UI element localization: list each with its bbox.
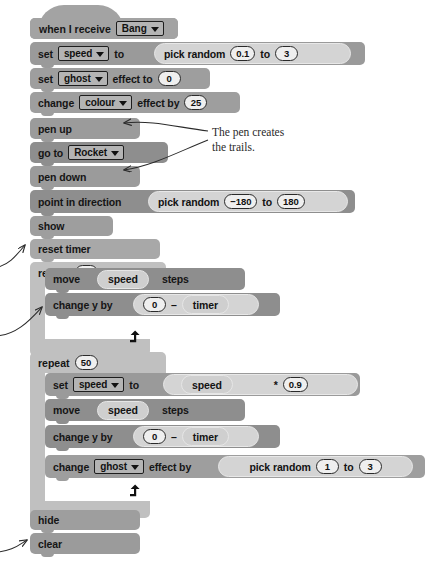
reporter-variable-speed[interactable]: speed <box>97 401 149 420</box>
block-text: point in direction <box>38 196 121 208</box>
operator-sign: * <box>274 379 278 391</box>
operand-to[interactable]: 3 <box>275 46 298 61</box>
arrow-to-clear <box>0 540 27 552</box>
block-text: set <box>38 73 53 85</box>
input-repeat-count[interactable]: 50 <box>75 355 98 370</box>
reporter-variable-speed[interactable]: speed <box>181 375 233 394</box>
block-text: move <box>53 273 80 285</box>
loop-arrow-icon <box>128 484 143 498</box>
script-canvas: when I receive Bang set speed to pick ra… <box>0 0 446 564</box>
block-move-steps-2[interactable]: move speed steps <box>45 399 245 421</box>
block-text: show <box>38 220 64 232</box>
dropdown-value: ghost <box>100 462 127 472</box>
dropdown-effect-ghost[interactable]: ghost <box>58 71 108 86</box>
operand-from[interactable]: 0.1 <box>230 46 255 61</box>
reporter-variable-timer[interactable]: timer <box>182 427 229 446</box>
loop-arrow-icon <box>128 330 143 344</box>
dropdown-message[interactable]: Bang <box>116 21 164 36</box>
block-point-in-direction[interactable]: point in direction pick random −180 to 1… <box>30 190 355 213</box>
operator-label: pick random <box>164 48 225 60</box>
reporter-subtract[interactable]: 0 – timer <box>133 294 259 315</box>
block-text: reset timer <box>38 243 91 255</box>
dropdown-value: colour <box>85 98 115 108</box>
block-text: move <box>53 404 80 416</box>
operand-left[interactable]: 0 <box>143 429 166 444</box>
operand-right[interactable]: 0.9 <box>283 377 308 392</box>
block-go-to[interactable]: go to Rocket <box>30 142 168 163</box>
dropdown-variable-speed[interactable]: speed <box>58 46 109 61</box>
operand-from[interactable]: 1 <box>316 459 339 474</box>
repeat-arm <box>30 283 45 339</box>
block-text: change y by <box>53 299 113 311</box>
operator-mid: to <box>344 461 354 473</box>
operand-to[interactable]: 3 <box>359 459 382 474</box>
repeat-arm <box>30 373 45 501</box>
block-show[interactable]: show <box>30 216 113 236</box>
block-change-ghost-effect[interactable]: change ghost effect by pick random 1 to … <box>45 455 425 478</box>
dropdown-value: speed <box>64 49 92 59</box>
operand-left[interactable]: 0 <box>143 297 166 312</box>
block-text: clear <box>38 538 62 550</box>
block-pen-up[interactable]: pen up <box>30 118 140 139</box>
operator-mid: to <box>260 48 270 60</box>
reporter-pick-random[interactable]: pick random −180 to 180 <box>148 191 348 212</box>
input-effect-value[interactable]: 0 <box>158 71 181 86</box>
reporter-pick-random[interactable]: pick random 0.1 to 3 <box>154 43 351 64</box>
dropdown-effect-ghost[interactable]: ghost <box>94 459 144 474</box>
reporter-multiply[interactable]: speed * 0.9 <box>163 374 358 395</box>
dropdown-effect-colour[interactable]: colour <box>79 95 132 110</box>
block-when-i-receive[interactable]: when I receive Bang <box>30 18 178 39</box>
block-move-steps-1[interactable]: move speed steps <box>45 268 245 290</box>
dropdown-value: Bang <box>122 24 147 34</box>
input-effect-value[interactable]: 25 <box>184 95 207 110</box>
block-text: pen down <box>38 171 86 183</box>
block-text: set <box>38 48 53 60</box>
reporter-variable-speed[interactable]: speed <box>97 270 149 289</box>
block-pen-down[interactable]: pen down <box>30 166 140 187</box>
block-set-ghost-effect[interactable]: set ghost effect to 0 <box>30 68 210 89</box>
block-hide[interactable]: hide <box>30 510 140 530</box>
block-text: change y by <box>53 431 113 443</box>
block-text-to: to <box>129 379 139 391</box>
block-text-effect-to: effect to <box>113 73 153 85</box>
block-text: change <box>38 97 74 109</box>
operator-sign: – <box>171 431 177 443</box>
block-label-row: when I receive Bang <box>39 18 164 39</box>
chevron-down-icon <box>96 52 104 57</box>
repeat-header: repeat 50 <box>30 352 166 373</box>
block-change-colour-effect[interactable]: change colour effect by 25 <box>30 92 240 113</box>
chevron-down-icon <box>95 77 103 82</box>
block-text-effect-by: effect by <box>149 461 191 473</box>
arrow-to-reset-timer <box>0 245 25 268</box>
dropdown-target-rocket[interactable]: Rocket <box>68 145 124 160</box>
dropdown-value: Rocket <box>74 148 107 158</box>
operator-mid: to <box>262 196 272 208</box>
block-text: repeat <box>38 357 70 369</box>
block-text-to: to <box>114 48 124 60</box>
dropdown-value: speed <box>79 380 107 390</box>
operator-label: pick random <box>158 196 219 208</box>
dropdown-variable-speed[interactable]: speed <box>73 377 124 392</box>
chevron-down-icon <box>111 383 119 388</box>
dropdown-value: ghost <box>64 74 91 84</box>
block-clear[interactable]: clear <box>30 533 140 554</box>
chevron-down-icon <box>119 101 127 106</box>
block-change-y-by-2[interactable]: change y by 0 – timer <box>45 425 280 448</box>
operator-sign: – <box>171 299 177 311</box>
block-text-effect-by: effect by <box>137 97 179 109</box>
operand-from[interactable]: −180 <box>224 194 257 209</box>
block-reset-timer[interactable]: reset timer <box>30 239 160 259</box>
block-text-steps: steps <box>162 404 189 416</box>
block-set-speed-2[interactable]: set speed to speed * 0.9 <box>45 373 360 396</box>
reporter-pick-random[interactable]: pick random 1 to 3 <box>218 456 413 477</box>
block-change-y-by-1[interactable]: change y by 0 – timer <box>45 293 280 316</box>
operand-to[interactable]: 180 <box>277 194 305 209</box>
block-text: pen up <box>38 123 72 135</box>
block-text: go to <box>38 147 63 159</box>
chevron-down-icon <box>111 151 119 156</box>
reporter-variable-timer[interactable]: timer <box>182 295 229 314</box>
block-text-steps: steps <box>162 273 189 285</box>
annotation-pen-note: The pen creates the trails. <box>212 125 284 155</box>
block-set-speed[interactable]: set speed to pick random 0.1 to 3 <box>30 42 365 65</box>
reporter-subtract[interactable]: 0 – timer <box>133 426 259 447</box>
